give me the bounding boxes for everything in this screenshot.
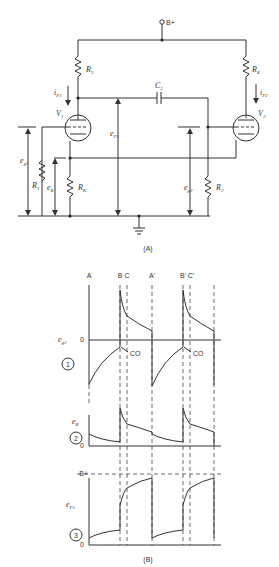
current-arrow-ip2-icon (253, 98, 259, 104)
trace-2-ek: 0 eK 2 (70, 408, 221, 449)
resistor-rk-icon (67, 176, 73, 197)
c2-label: C2 (155, 81, 163, 91)
svg-text:1: 1 (66, 361, 70, 368)
svg-text:0: 0 (80, 336, 84, 343)
trace-3-label: eP1 (66, 500, 75, 510)
marker-b-prime: B' (180, 272, 186, 279)
cutoff-label-1: CO (130, 350, 141, 357)
svg-text:3: 3 (74, 532, 78, 539)
trace-1-label: eg2 (58, 335, 67, 345)
ip1-label: iP1 (54, 88, 62, 98)
eg1-label: eg1 (20, 156, 29, 166)
vacuum-tube-v2-icon (233, 115, 259, 141)
caption-b: (B) (143, 556, 152, 564)
supply-label: B+ (166, 19, 175, 26)
ek-label: eK (47, 183, 55, 193)
cutoff-label-2: CO (193, 350, 204, 357)
waveform-timing-diagram: A B C A' B' C' 0 eg2 1 CO CO (58, 272, 221, 564)
trace-2-label: eK (72, 417, 80, 427)
v2-label: V2 (258, 109, 266, 119)
svg-text:2: 2 (74, 435, 78, 442)
marker-a-prime: A' (149, 272, 155, 279)
eg2-label: eg2 (184, 183, 193, 193)
ground-icon (133, 228, 145, 234)
marker-b: B (118, 272, 123, 279)
ip2-label: iP2 (260, 88, 268, 98)
caption-a: (A) (143, 245, 152, 253)
multivibrator-figure: B+ R3 R4 iP1 iP2 C2 (0, 0, 279, 567)
resistor-r3-icon (75, 56, 81, 77)
marker-a: A (87, 272, 92, 279)
resistor-r4-icon (243, 56, 249, 77)
svg-text:B+: B+ (79, 470, 88, 477)
r4-label: R4 (251, 65, 260, 75)
v1-label: V1 (56, 109, 63, 119)
marker-c: C (124, 272, 129, 279)
circuit-schematic: B+ R3 R4 iP1 iP2 C2 (18, 19, 268, 253)
r3-label: R3 (85, 65, 94, 75)
rk-label: RK (77, 183, 87, 193)
trace-1-eg2: 0 eg2 1 CO CO (58, 285, 221, 386)
trace-3-ep1: B+ 0 eP1 3 (66, 470, 221, 548)
marker-c-prime: C' (188, 272, 194, 279)
svg-text:0: 0 (80, 541, 84, 548)
resistor-r2-icon (205, 176, 211, 197)
r1-label: R1 (31, 181, 39, 191)
current-arrow-ip1-icon (65, 100, 71, 106)
supply-terminal-icon (160, 20, 164, 24)
svg-text:0: 0 (80, 442, 84, 449)
r2-label: R2 (215, 183, 224, 193)
